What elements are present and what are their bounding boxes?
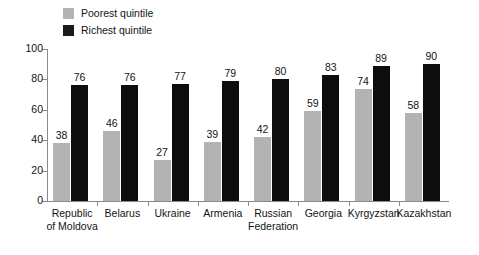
legend-label-poorest: Poorest quintile xyxy=(81,8,153,19)
bar-poorest: 39 xyxy=(204,142,221,201)
bar-value-label: 76 xyxy=(124,71,136,83)
bar-value-label: 76 xyxy=(74,71,86,83)
bar-value-label: 59 xyxy=(307,97,319,109)
bar-poorest: 74 xyxy=(355,89,372,201)
y-axis-tick-label: 40 xyxy=(31,133,43,145)
bar-group: 4676 xyxy=(97,49,147,201)
plot-area: 020406080100 387646762777397942805983748… xyxy=(47,49,449,201)
bar-value-label: 80 xyxy=(275,65,287,77)
bar-richest: 80 xyxy=(272,79,289,201)
bar-poorest: 58 xyxy=(405,113,422,201)
bar-richest: 90 xyxy=(423,64,440,201)
x-axis-tick-mark xyxy=(298,201,299,206)
bar-poorest: 38 xyxy=(53,143,70,201)
bar-richest: 89 xyxy=(373,66,390,201)
bar-richest: 79 xyxy=(222,81,239,201)
bar-value-label: 46 xyxy=(106,117,118,129)
x-axis-tick-mark xyxy=(198,201,199,206)
category-label-line: Kazakhstan xyxy=(391,207,457,220)
y-axis-tick-label: 0 xyxy=(37,194,43,206)
bar-poorest: 59 xyxy=(304,111,321,201)
bar-richest: 76 xyxy=(121,85,138,201)
bar-value-label: 83 xyxy=(325,61,337,73)
legend-item-richest: Richest quintile xyxy=(63,22,263,39)
bar-group: 3979 xyxy=(198,49,248,201)
x-axis-tick-mark xyxy=(148,201,149,206)
bar-value-label: 74 xyxy=(357,75,369,87)
bar-group: 2777 xyxy=(148,49,198,201)
bar-value-label: 77 xyxy=(174,70,186,82)
y-axis-tick-label: 20 xyxy=(31,164,43,176)
legend-swatch-icon-richest xyxy=(63,25,74,36)
bar-chart: Poorest quintile Richest quintile 020406… xyxy=(0,0,479,255)
bar-value-label: 90 xyxy=(425,50,437,62)
bar-value-label: 38 xyxy=(56,129,68,141)
bar-group: 7489 xyxy=(349,49,399,201)
x-axis-category-labels: Republicof MoldovaBelarusUkraineArmeniaR… xyxy=(47,207,449,251)
y-axis-tick-label: 60 xyxy=(31,103,43,115)
bar-richest: 77 xyxy=(172,84,189,201)
x-axis-tick-mark xyxy=(97,201,98,206)
x-axis-tick-mark xyxy=(349,201,350,206)
x-axis-tick-mark xyxy=(248,201,249,206)
bar-poorest: 42 xyxy=(254,137,271,201)
bar-value-label: 27 xyxy=(156,146,168,158)
y-axis-tick-label: 100 xyxy=(25,42,43,54)
bar-value-label: 42 xyxy=(257,123,269,135)
y-axis-tick-label: 80 xyxy=(31,72,43,84)
x-axis-tick-mark xyxy=(399,201,400,206)
bar-value-label: 79 xyxy=(224,67,236,79)
legend-swatch-icon-poorest xyxy=(63,8,74,19)
chart-legend: Poorest quintile Richest quintile xyxy=(63,5,263,39)
bar-group: 5890 xyxy=(399,49,449,201)
legend-label-richest: Richest quintile xyxy=(81,25,152,36)
category-label-line: Federation xyxy=(240,220,306,233)
category-label-line: of Moldova xyxy=(39,220,105,233)
bar-value-label: 89 xyxy=(375,52,387,64)
bar-richest: 83 xyxy=(322,75,339,201)
bar-group: 5983 xyxy=(298,49,348,201)
bar-group: 4280 xyxy=(248,49,298,201)
bar-richest: 76 xyxy=(71,85,88,201)
x-axis-category-label: Kazakhstan xyxy=(391,207,457,220)
bar-value-label: 39 xyxy=(206,128,218,140)
legend-item-poorest: Poorest quintile xyxy=(63,5,263,22)
bar-group: 3876 xyxy=(47,49,97,201)
bar-poorest: 27 xyxy=(154,160,171,201)
bar-poorest: 46 xyxy=(103,131,120,201)
bar-value-label: 58 xyxy=(407,99,419,111)
